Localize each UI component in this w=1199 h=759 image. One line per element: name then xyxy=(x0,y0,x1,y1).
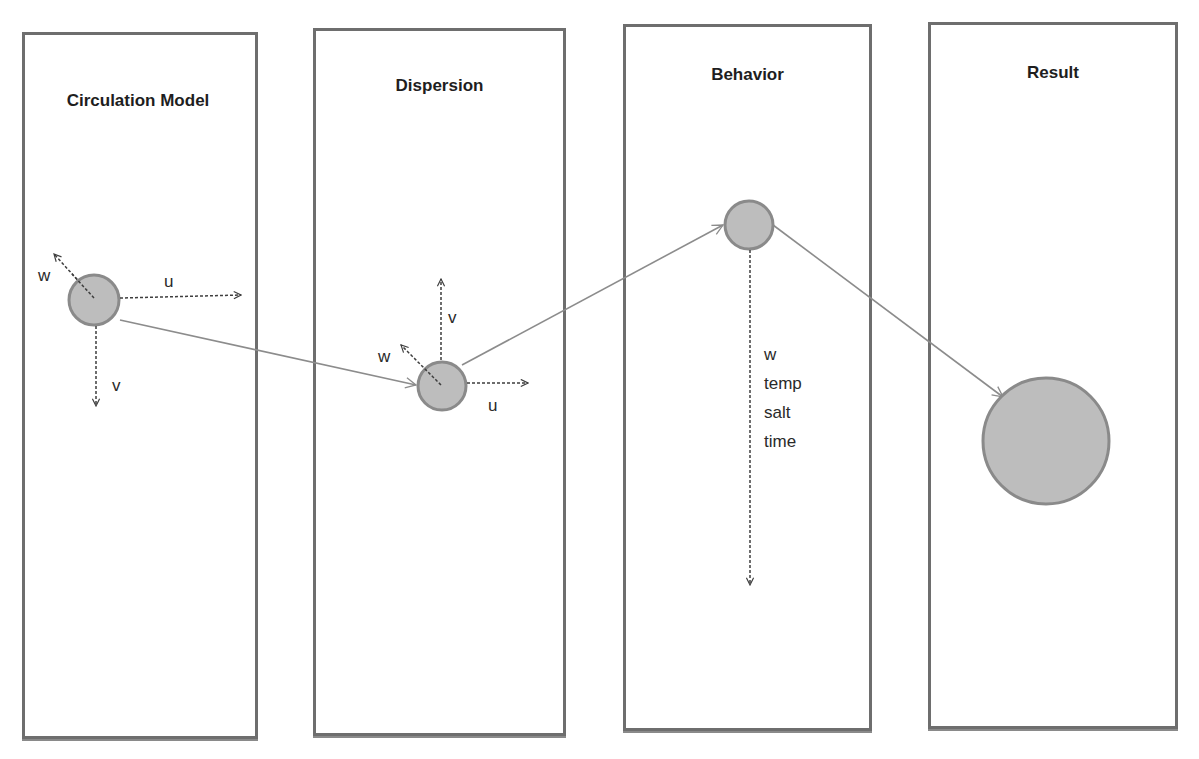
behavior-variable: w xyxy=(764,340,802,369)
diagram-graphics xyxy=(0,0,1199,759)
vector-label-w: w xyxy=(38,266,50,286)
dispersion-particle xyxy=(401,279,528,410)
behavior-variable: time xyxy=(764,427,802,456)
vector-label-v: v xyxy=(448,308,457,328)
flow-connector xyxy=(120,225,1003,397)
circulation-particle xyxy=(54,254,241,406)
diagram-canvas: Circulation Model Dispersion Behavior Re… xyxy=(0,0,1199,759)
vector-label-u: u xyxy=(488,396,497,416)
behavior-variable-list: w temp salt time xyxy=(764,340,802,456)
vector-label-w: w xyxy=(378,347,390,367)
behavior-variable: temp xyxy=(764,369,802,398)
vector-label-u: u xyxy=(164,272,173,292)
vector-label-v: v xyxy=(112,376,121,396)
behavior-variable: salt xyxy=(764,398,802,427)
result-particle xyxy=(983,378,1109,504)
